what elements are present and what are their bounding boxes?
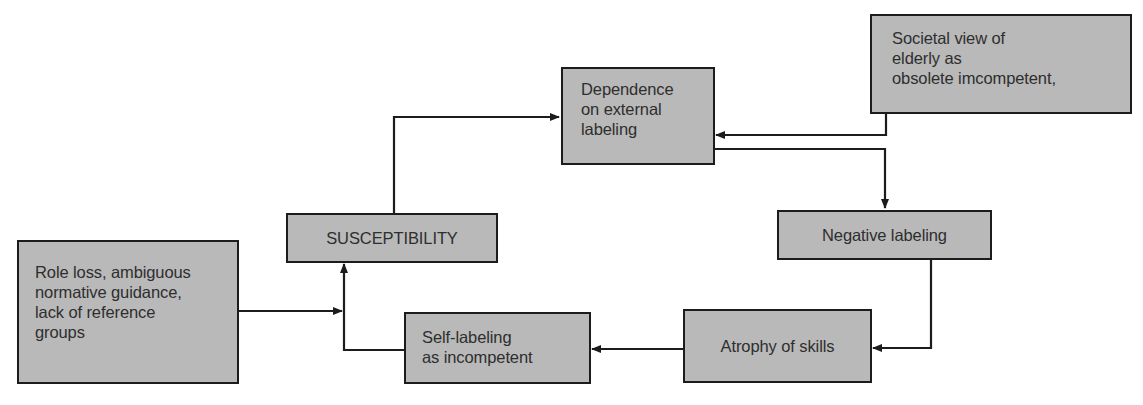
node-susceptibility: SUSCEPTIBILITY [286,213,498,263]
node-dependence: Dependence on external labeling [561,67,715,165]
arrow-negative-to-atrophy [873,259,931,348]
node-societal-view: Societal view of elderly as obsolete imc… [870,14,1132,114]
node-atrophy: Atrophy of skills [683,309,872,383]
node-dependence-label: Dependence on external labeling [581,79,713,139]
node-atrophy-label: Atrophy of skills [721,336,835,356]
node-self-labeling-label: Self-labeling as incompetent [422,327,589,367]
node-role-loss: Role loss, ambiguous normative guidance,… [17,240,239,384]
node-role-loss-label: Role loss, ambiguous normative guidance,… [35,262,237,342]
node-susceptibility-label: SUSCEPTIBILITY [326,228,458,248]
social-breakdown-diagram: Societal view of elderly as obsolete imc… [0,0,1143,405]
node-self-labeling: Self-labeling as incompetent [404,312,591,384]
arrow-self-labeling-to-susceptibility [344,264,404,350]
node-negative-labeling: Negative labeling [777,210,992,260]
arrow-susceptibility-to-dependence [394,117,559,213]
arrow-societal-to-dependence [716,113,886,135]
node-societal-view-label: Societal view of elderly as obsolete imc… [892,28,1130,88]
arrow-dependence-to-negative [714,149,885,208]
node-negative-labeling-label: Negative labeling [822,225,947,245]
